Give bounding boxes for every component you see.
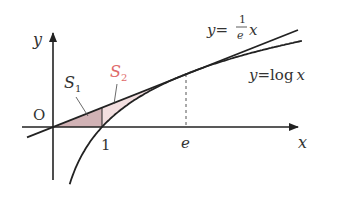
s1-sub: 1 [75, 83, 81, 94]
log-equation-label: y=logx [248, 66, 305, 84]
s2-main: S [110, 62, 121, 81]
origin-label: O [33, 106, 45, 124]
s1-label: S1 [64, 73, 81, 94]
log-var: x [296, 66, 305, 84]
s1-main: S [64, 73, 75, 92]
tangent-num: 1 [239, 13, 246, 26]
tick-label-e: e [181, 134, 190, 152]
log-fn: log [270, 66, 294, 84]
tangent-den: e [237, 29, 244, 42]
tick-label-1: 1 [101, 136, 111, 154]
tangent-lhs: y= [206, 21, 228, 39]
x-axis-label: x [298, 133, 307, 152]
s2-label: S2 [110, 62, 127, 83]
tangent-equation-label: y= 1 e x [206, 13, 258, 42]
s2-sub: 2 [121, 72, 127, 83]
y-axis-label: y [32, 30, 43, 49]
tangent-var: x [249, 21, 258, 39]
graph-canvas: y x O 1 e S1 S2 y= 1 e x y=logx [0, 0, 339, 200]
svg-text:y=logx: y=logx [248, 66, 305, 84]
log-lhs: y= [248, 66, 270, 84]
s1-leader [76, 97, 88, 116]
